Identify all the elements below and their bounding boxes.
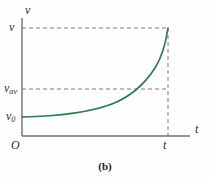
x-axis-label: t <box>195 123 198 135</box>
plot-canvas <box>0 0 210 181</box>
tick-label-t-final: t <box>163 139 166 151</box>
y-axis-label: v <box>25 4 30 16</box>
origin-label: O <box>11 139 20 151</box>
figure-caption: (b) <box>0 160 210 172</box>
velocity-time-figure: v v vav v0 O t t (b) <box>0 0 210 181</box>
tick-label-v-initial-subscript: 0 <box>11 115 15 124</box>
tick-label-v-initial: v0 <box>6 110 15 122</box>
tick-label-v-average-subscript: av <box>9 87 17 96</box>
velocity-curve <box>22 28 168 117</box>
tick-label-v-average: vav <box>4 82 17 94</box>
tick-label-v-final: v <box>9 21 14 33</box>
